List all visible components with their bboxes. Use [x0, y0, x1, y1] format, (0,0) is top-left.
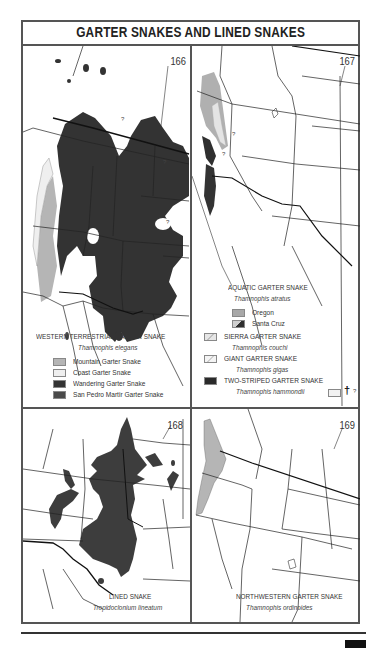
map-number-leader — [334, 429, 342, 449]
legend-swatch-san-pedro — [53, 391, 66, 399]
map-number-leader — [161, 66, 168, 126]
plate-title: GARTER SNAKES AND LINED SNAKES — [76, 24, 305, 40]
legend-swatch-extinct — [328, 389, 341, 397]
legend-label: San Pedro Martir Garter Snake — [73, 390, 163, 399]
map-169-panel: 169 NORTHWESTERN GARTER SNAKE Thamnophis… — [192, 409, 360, 622]
uncertain-marker: ? — [353, 388, 356, 394]
range-patch — [100, 67, 106, 75]
range-lined-snake-east — [145, 453, 163, 467]
map-number-168: 168 — [167, 419, 183, 431]
range-lined-snake-west-2 — [63, 469, 75, 489]
legend-label: Oregon — [252, 308, 274, 317]
legend-item-giant: GIANT GARTER SNAKE — [204, 354, 313, 363]
legend-item: San Pedro Martir Garter Snake — [53, 390, 183, 399]
legend-scientific-name: Tropidoclonium lineatum — [93, 603, 162, 612]
map-168-panel: 168 LINED SNAKE Tropidoclonium lineatum — [23, 409, 190, 622]
legend-swatch-oregon — [232, 309, 245, 317]
range-lined-snake-west — [49, 489, 79, 529]
legend-item: Mountain Garter Snake — [53, 357, 156, 366]
legend-title: WESTERN TERRESTRIAL GARTER SNAKE — [36, 332, 165, 341]
plate-title-bar: GARTER SNAKES AND LINED SNAKES — [21, 20, 360, 46]
legend-title: LINED SNAKE — [109, 592, 151, 601]
legend-item: Coast Garter Snake — [53, 368, 144, 377]
legend-label: Mountain Garter Snake — [73, 357, 141, 366]
legend-scientific-sierra: Thamnophis couchi — [232, 343, 288, 352]
legend-item-santa-cruz: Santa Cruz — [232, 319, 292, 328]
range-northwestern-garter — [196, 419, 226, 515]
legend-label: Wandering Garter Snake — [73, 379, 145, 388]
legend-scientific-name: Thamnophis ordinoides — [246, 603, 313, 612]
legend-label: Coast Garter Snake — [73, 368, 131, 377]
legend-scientific-aquatic: Thamnophis atratus — [234, 294, 291, 303]
range-patch — [83, 64, 89, 72]
page-edge-tab — [345, 640, 366, 648]
page-bottom-rule — [21, 632, 366, 634]
map-number-169: 169 — [339, 419, 355, 431]
range-patch — [55, 59, 61, 63]
state-borders — [196, 409, 360, 622]
legend-swatch-giant — [204, 355, 217, 363]
legend-item-oregon: Oregon — [232, 308, 279, 317]
range-lined-snake-east-2 — [167, 471, 179, 491]
map-168-svg — [23, 409, 190, 622]
legend-item-sierra: SIERRA GARTER SNAKE — [204, 332, 318, 341]
map-number-166: 166 — [170, 55, 186, 67]
baja-range-svg — [192, 46, 360, 407]
legend-title-sierra: SIERRA GARTER SNAKE — [224, 332, 301, 341]
legend-title-two-striped: TWO-STRIPED GARTER SNAKE — [224, 376, 323, 385]
legend-swatch-wandering — [53, 380, 66, 388]
map-number-167: 167 — [339, 55, 355, 67]
legend-swatch-two-striped — [204, 377, 217, 385]
us-canada-border — [220, 451, 360, 499]
legend-swatch-mountain — [53, 358, 66, 366]
map-169-svg — [192, 409, 360, 622]
range-lined-snake — [79, 417, 147, 577]
legend-swatch-coast — [53, 369, 66, 377]
map-166-svg: ? ? ? — [23, 46, 190, 407]
legend-label: Santa Cruz — [252, 319, 285, 328]
legend-scientific-two-striped: Thamnophis hammondii — [236, 387, 304, 396]
legend-item-two-striped: TWO-STRIPED GARTER SNAKE — [204, 376, 345, 385]
range-patch — [98, 578, 104, 584]
map-167-panel: ? ? 167 AQUATIC GARTER SNAKE Thamnophis … — [192, 46, 360, 407]
legend-scientific-giant: Thamnophis gigas — [236, 365, 288, 374]
legend-item: Wandering Garter Snake — [53, 379, 161, 388]
range-patch — [171, 460, 175, 466]
legend-title-aquatic: AQUATIC GARTER SNAKE — [228, 283, 308, 292]
legend-swatch-sierra — [204, 333, 217, 341]
legend-swatch-santa-cruz — [232, 320, 245, 328]
map-166-panel: ? ? ? 166 WESTERN TERRESTRIAL GARTER SNA… — [23, 46, 190, 407]
range-patch — [67, 79, 71, 83]
extinct-cross-icon: † — [344, 384, 350, 396]
legend-title: NORTHWESTERN GARTER SNAKE — [236, 592, 342, 601]
legend-title-giant: GIANT GARTER SNAKE — [224, 354, 297, 363]
great-salt-lake — [288, 559, 296, 569]
range-gap — [87, 228, 99, 244]
uncertain-marker: ? — [121, 116, 125, 122]
legend-scientific-name: Thamnophis elegans — [78, 343, 137, 352]
